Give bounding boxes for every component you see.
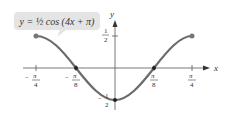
- callout-pointer: [57, 30, 66, 37]
- svg-text:1: 1: [104, 27, 108, 35]
- svg-text:−: −: [25, 74, 29, 82]
- svg-text:4: 4: [34, 81, 38, 89]
- endpoint-right: [190, 34, 195, 39]
- xtick-pi-4: π 4: [188, 72, 196, 89]
- svg-text:8: 8: [74, 81, 78, 89]
- x-axis-label: x: [213, 63, 218, 73]
- svg-text:8: 8: [152, 81, 156, 89]
- zero-right: [152, 66, 156, 70]
- xtick-neg-pi-8: − π 8: [65, 72, 80, 89]
- xtick-pi-8: π 8: [150, 72, 158, 89]
- svg-text:4: 4: [190, 81, 194, 89]
- svg-text:−: −: [65, 74, 69, 82]
- xtick-neg-pi-4: − π 4: [25, 72, 40, 89]
- equation-label: y = ½ cos (4x + π): [14, 12, 100, 30]
- ytick-neg-half: − 1 2: [98, 92, 109, 109]
- zero-left: [74, 66, 78, 70]
- y-axis-label: y: [109, 9, 114, 19]
- svg-text:π: π: [151, 72, 155, 80]
- svg-text:1: 1: [105, 92, 109, 100]
- x-axis-arrow-icon: [203, 66, 210, 71]
- svg-text:2: 2: [105, 101, 109, 109]
- ytick-half: 1 2: [102, 27, 109, 44]
- svg-text:π: π: [73, 72, 77, 80]
- svg-text:2: 2: [104, 36, 108, 44]
- y-axis-arrow-icon: [113, 20, 118, 27]
- endpoint-left: [34, 34, 39, 39]
- svg-text:π: π: [33, 72, 37, 80]
- minimum-point: [113, 98, 117, 102]
- svg-text:−: −: [98, 95, 102, 103]
- svg-text:π: π: [189, 72, 193, 80]
